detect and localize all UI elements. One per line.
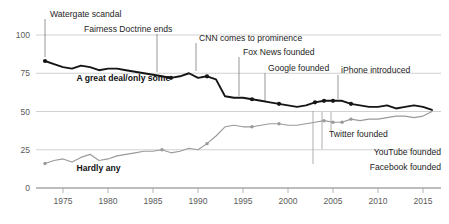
- series-2-marker-8: [349, 117, 352, 120]
- annotation-label-8: Facebook founded: [370, 162, 441, 172]
- series-2-marker-4: [277, 122, 280, 125]
- series-1-marker-4: [277, 102, 281, 106]
- series-label-1: A great deal/only some: [77, 73, 171, 83]
- annotation-label-6: Twitter founded: [329, 129, 388, 139]
- annotation-label-7: YouTube founded: [374, 147, 441, 157]
- x-axis-tick-label-1995: 1995: [234, 196, 253, 206]
- y-axis-tick-label-0: 0: [25, 183, 30, 193]
- annotation-label-1: Fairness Doctrine ends: [84, 24, 172, 34]
- line-chart: 0255075100197519801985199019952000200520…: [0, 0, 449, 224]
- x-axis-tick-label-2005: 2005: [324, 196, 343, 206]
- y-axis-tick-label-100: 100: [16, 30, 30, 40]
- series-2-marker-7: [340, 121, 343, 124]
- series-label-2: Hardly any: [77, 163, 121, 173]
- series-1-marker-7: [331, 99, 335, 103]
- x-axis-tick-label-1975: 1975: [54, 196, 73, 206]
- series-2-marker-3: [250, 125, 253, 128]
- x-axis-tick-label-1985: 1985: [144, 196, 163, 206]
- y-axis-tick-label-50: 50: [21, 107, 31, 117]
- x-axis-tick-label-2015: 2015: [414, 196, 433, 206]
- x-axis-tick-label-1990: 1990: [189, 196, 208, 206]
- annotation-label-5: iPhone introduced: [341, 65, 410, 75]
- y-axis-tick-label-75: 75: [21, 68, 31, 78]
- series-1-marker-8: [349, 102, 353, 106]
- series-1-marker-0: [43, 59, 47, 63]
- series-2-marker-2: [205, 142, 208, 145]
- y-axis-tick-label-25: 25: [21, 145, 31, 155]
- series-2-marker-6: [331, 121, 334, 124]
- series-1-marker-5: [313, 100, 317, 104]
- annotation-label-3: Fox News founded: [243, 47, 315, 57]
- annotation-label-0: Watergate scandal: [50, 9, 121, 19]
- annotation-label-4: Google founded: [268, 63, 329, 73]
- series-2-marker-5: [322, 119, 325, 122]
- x-axis-tick-label-2000: 2000: [279, 196, 298, 206]
- chart-container: 0255075100197519801985199019952000200520…: [0, 0, 449, 224]
- x-axis-tick-label-1980: 1980: [99, 196, 118, 206]
- x-axis-tick-label-2010: 2010: [369, 196, 388, 206]
- series-2-marker-0: [43, 162, 46, 165]
- series-1-marker-3: [250, 97, 254, 101]
- series-2-marker-1: [160, 148, 163, 151]
- annotation-label-2: CNN comes to prominence: [199, 33, 302, 43]
- series-1-marker-6: [322, 99, 326, 103]
- series-1-marker-2: [205, 74, 209, 78]
